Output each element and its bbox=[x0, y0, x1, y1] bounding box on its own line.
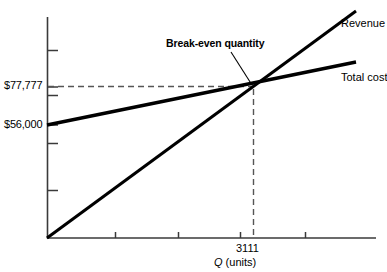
y-axis-label-breakeven-value: $77,777 bbox=[4, 80, 42, 91]
break-even-leader-line bbox=[231, 52, 252, 85]
x-axis-ticks bbox=[116, 232, 306, 238]
series-label-total-cost: Total cost bbox=[341, 72, 387, 83]
break-even-chart: $77,777 $56,000 Revenue Total cost Break… bbox=[0, 0, 387, 272]
annotation-leader bbox=[231, 52, 252, 85]
y-axis-ticks bbox=[47, 51, 58, 191]
x-axis-title: Q (units) bbox=[214, 257, 256, 268]
x-axis-title-units: (units) bbox=[223, 256, 257, 268]
axis-group bbox=[47, 17, 376, 239]
x-axis-label-break-even-quantity: 3111 bbox=[236, 243, 259, 254]
annotation-break-even-quantity: Break-even quantity bbox=[166, 38, 264, 49]
total-cost-line bbox=[47, 62, 356, 125]
x-axis-title-variable: Q bbox=[214, 256, 223, 268]
y-axis-label-fixed-cost: $56,000 bbox=[4, 119, 42, 130]
series-label-revenue: Revenue bbox=[341, 18, 385, 29]
